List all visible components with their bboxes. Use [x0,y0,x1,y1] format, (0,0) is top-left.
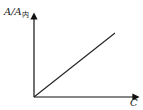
y-axis-label-subscript: 内 [22,11,29,19]
data-line [34,33,115,97]
chart: A/A内 C [0,0,143,110]
y-axis-label-main: A/A [4,6,22,17]
y-axis-label: A/A内 [4,6,29,19]
x-axis-label: C [130,97,138,108]
